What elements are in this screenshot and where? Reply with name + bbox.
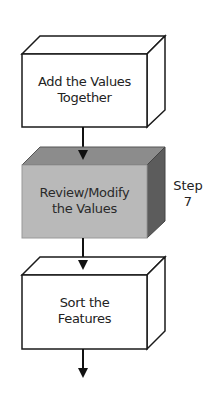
step-label: Step 7 xyxy=(170,178,206,210)
box-label-line: Review/Modify xyxy=(22,185,147,201)
step-number: 7 xyxy=(170,194,206,210)
box-add-values-label: Add the Values Together xyxy=(22,74,147,106)
box-label-line: Sort the xyxy=(22,295,147,311)
step-word: Step xyxy=(170,178,206,194)
arrow-3 xyxy=(78,349,88,378)
box-review-modify-label: Review/Modify the Values xyxy=(22,185,147,217)
box-label-line: Features xyxy=(22,311,147,327)
box-label-line: Add the Values xyxy=(22,74,147,90)
box-label-line: the Values xyxy=(22,201,147,217)
box-label-line: Together xyxy=(22,90,147,106)
box-sort-features-label: Sort the Features xyxy=(22,295,147,327)
